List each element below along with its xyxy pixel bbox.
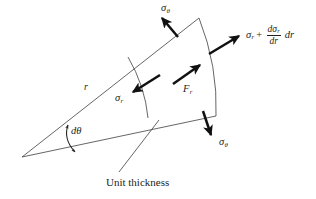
label-d-theta: dθ [71,126,81,137]
d-theta-theta: θ [76,125,81,136]
fraction-denominator: dr [268,36,278,46]
fraction-numerator: dσr [267,25,281,35]
upper-radial-line [22,18,199,157]
sigma-r-outer-base: σr [246,30,254,41]
sigma-theta-bottom-arrow [203,111,211,135]
stress-arrows [133,18,239,135]
sigma-r-outer-arrow [209,36,239,54]
sigma-theta-top-subscript: θ [166,7,169,14]
sigma-r-outer-operator: + [256,30,262,41]
derivative-fraction: dσr dr [267,25,281,46]
stress-element-figure: σθ σθ σr Fr r dθ σr + dσr dr dr Unit thi… [0,0,316,199]
unit-thickness-leader-line [119,120,159,172]
label-sigma-r-inner: σr [115,93,123,104]
label-radius: r [84,82,88,92]
caption-unit-thickness: Unit thickness [106,177,169,188]
force-r-arrow [173,65,200,84]
sigma-r-inner-subscript: r [120,97,123,104]
sigma-theta-top-arrow [162,18,178,37]
sigma-theta-bottom-subscript: θ [224,141,227,148]
outer-arc [199,18,216,116]
sigma-r-inner-arrow [133,75,160,92]
force-r-symbol: F [183,83,189,94]
label-force-r: Fr [183,84,192,95]
label-sigma-r-outer-expression: σr + dσr dr dr [246,25,294,46]
force-r-subscript: r [190,88,193,95]
label-sigma-theta-bottom: σθ [219,137,228,148]
numerator-subscript: r [277,27,279,34]
lower-radial-line [22,116,216,157]
label-sigma-theta-top: σθ [161,3,170,14]
unit-thickness-leader [119,120,159,172]
sigma-r-outer-subscript: r [251,33,254,40]
sigma-r-outer-trailing-dr: dr [285,30,294,41]
